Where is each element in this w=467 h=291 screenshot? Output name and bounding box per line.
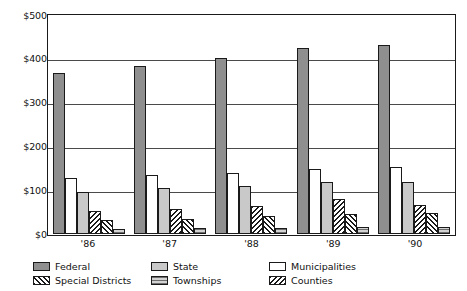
- legend-item-counties[interactable]: Counties: [269, 273, 401, 287]
- x-tick-label: '87: [140, 238, 200, 252]
- bar-townships: [275, 228, 287, 234]
- bar-special-districts: [263, 216, 275, 233]
- bar-group: [215, 15, 287, 235]
- y-tick-label: $500: [3, 11, 47, 21]
- bar-special-districts: [345, 214, 357, 233]
- y-tick-label: $100: [3, 186, 47, 196]
- bar-special-districts: [426, 213, 438, 234]
- bar-state: [402, 182, 414, 233]
- bar-group: [378, 15, 450, 235]
- y-axis: $500$400$300$200$100$0: [0, 0, 47, 291]
- bar-special-districts: [101, 220, 113, 233]
- x-tick-label: '89: [303, 238, 363, 252]
- legend-item-municipalities[interactable]: Municipalities: [269, 259, 401, 273]
- legend-item-federal[interactable]: Federal: [33, 259, 151, 273]
- bar-municipalities: [65, 178, 77, 234]
- legend-swatch-icon: [33, 276, 50, 285]
- chart-legend: FederalSpecial DistrictsStateTownshipsMu…: [33, 259, 457, 287]
- bar-municipalities: [227, 173, 239, 233]
- bar-townships: [357, 227, 369, 233]
- legend-item-state[interactable]: State: [151, 259, 269, 273]
- bar-state: [321, 182, 333, 234]
- y-tick-label: $0: [3, 230, 47, 240]
- legend-item-townships[interactable]: Townships: [151, 273, 269, 287]
- legend-label: Municipalities: [291, 261, 356, 272]
- y-tick-label: $200: [3, 142, 47, 152]
- bar-state: [77, 192, 89, 234]
- legend-swatch-icon: [269, 276, 286, 285]
- bar-group: [297, 15, 369, 235]
- bar-counties: [333, 199, 345, 233]
- legend-item-special-districts[interactable]: Special Districts: [33, 273, 151, 287]
- bar-municipalities: [390, 167, 402, 234]
- bar-federal: [297, 48, 309, 233]
- bar-state: [158, 188, 170, 233]
- bar-group: [134, 15, 206, 235]
- legend-swatch-icon: [269, 262, 286, 271]
- y-tick-label: $300: [3, 98, 47, 108]
- bar-counties: [89, 211, 101, 234]
- bar-townships: [113, 229, 125, 233]
- bar-federal: [53, 73, 65, 234]
- x-tick-label: '88: [221, 238, 281, 252]
- x-axis-labels: '86'87'88'89'90: [47, 238, 456, 252]
- legend-label: Counties: [291, 275, 333, 286]
- bar-federal: [215, 58, 227, 234]
- bar-counties: [414, 205, 426, 234]
- x-tick-label: '86: [58, 238, 118, 252]
- bar-municipalities: [309, 169, 321, 233]
- bar-group: [53, 15, 125, 235]
- legend-label: Special Districts: [55, 275, 131, 286]
- legend-swatch-icon: [151, 262, 168, 271]
- plot-area: [47, 14, 456, 236]
- bar-groups: [48, 15, 455, 235]
- bar-counties: [170, 209, 182, 234]
- legend-swatch-icon: [33, 262, 50, 271]
- bar-townships: [194, 228, 206, 233]
- bar-state: [239, 186, 251, 234]
- bar-chart: $500$400$300$200$100$0 '86'87'88'89'90 F…: [0, 0, 467, 291]
- bar-municipalities: [146, 175, 158, 233]
- bar-townships: [438, 227, 450, 233]
- legend-label: Federal: [55, 261, 90, 272]
- bar-federal: [378, 45, 390, 234]
- y-tick-label: $400: [3, 54, 47, 64]
- bar-federal: [134, 66, 146, 234]
- x-tick-label: '90: [385, 238, 445, 252]
- legend-label: State: [173, 261, 198, 272]
- legend-label: Townships: [173, 275, 221, 286]
- bar-counties: [251, 206, 263, 234]
- bar-special-districts: [182, 219, 194, 234]
- legend-swatch-icon: [151, 276, 168, 285]
